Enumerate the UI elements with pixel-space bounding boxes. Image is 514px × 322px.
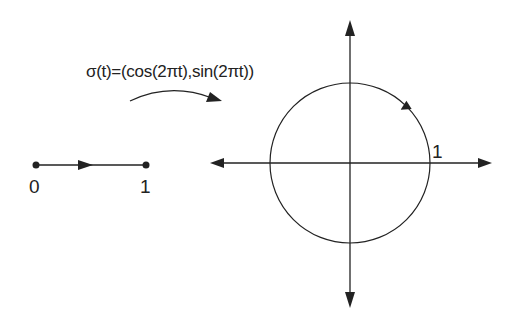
interval-start-label: 0 [29, 176, 40, 198]
x-axis-right-arrow-icon [478, 158, 492, 168]
mapping-arrow [130, 91, 212, 101]
start-point [33, 162, 40, 169]
interval-segment [33, 160, 150, 170]
radius-label: 1 [432, 141, 443, 163]
end-point [143, 162, 150, 169]
interval-end-label: 1 [140, 176, 151, 198]
formula-label: σ(t)=(cos(2πt),sin(2πt)) [86, 62, 254, 82]
mapping-arrowhead-icon [206, 92, 222, 102]
y-axis-down-arrow-icon [345, 292, 355, 308]
x-axis-left-arrow-icon [210, 158, 224, 168]
y-axis-up-arrow-icon [345, 20, 355, 36]
direction-arrow-icon [78, 160, 93, 170]
